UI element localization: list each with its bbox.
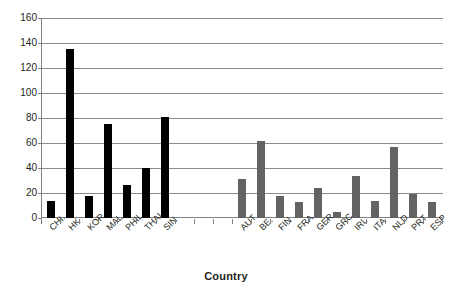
bar [409,194,417,218]
bar [314,188,322,218]
y-tick-label: 100 [3,88,37,98]
x-tick-mark [213,219,214,224]
x-tick-mark [156,219,157,224]
x-tick-mark [308,219,309,224]
bar [47,201,55,219]
bar [85,196,93,219]
x-tick-mark [194,219,195,224]
bar [390,147,398,218]
bar [238,179,246,218]
y-tick-label: 20 [3,188,37,198]
y-tick-label: 80 [3,113,37,123]
x-tick-mark [232,219,233,224]
y-tick-label: 160 [3,13,37,23]
x-tick-mark [404,219,405,224]
bar [295,202,303,218]
bar [257,141,265,219]
x-tick-mark [60,219,61,224]
x-tick-mark [270,219,271,224]
bars-group [41,18,442,218]
bar [428,202,436,218]
bar [371,201,379,218]
x-tick-mark [366,219,367,224]
x-axis-title: Country [0,270,452,282]
bar [104,124,112,218]
bar [161,117,169,218]
x-tick-mark [41,219,42,224]
x-tick-label: FIN [277,216,294,233]
x-tick-mark [385,219,386,224]
bar [66,49,74,218]
y-tick-label: 60 [3,138,37,148]
x-tick-mark [442,219,443,224]
x-tick-mark [79,219,80,224]
x-tick-mark [175,219,176,224]
y-tick-label: 40 [3,163,37,173]
y-tick-label: 0 [3,213,37,223]
x-tick-label: BE. [258,216,275,233]
bar [352,176,360,219]
x-axis-labels: CHI.HKKORMALPHILTHAISINAUTBE.FINFRAGERGR… [41,219,442,269]
x-tick-mark [289,219,290,224]
x-tick-label: IRL [353,216,369,232]
y-tick-label: 120 [3,63,37,73]
bar [123,185,131,218]
x-tick-mark [251,219,252,224]
y-tick-label: 140 [3,38,37,48]
bar [142,168,150,218]
x-tick-mark [117,219,118,224]
x-tick-mark [423,219,424,224]
x-tick-mark [327,219,328,224]
x-tick-mark [136,219,137,224]
bar-chart: 020406080100120140160 CHI.HKKORMALPHILTH… [0,0,452,292]
x-tick-mark [98,219,99,224]
x-tick-mark [347,219,348,224]
bar [276,196,284,219]
